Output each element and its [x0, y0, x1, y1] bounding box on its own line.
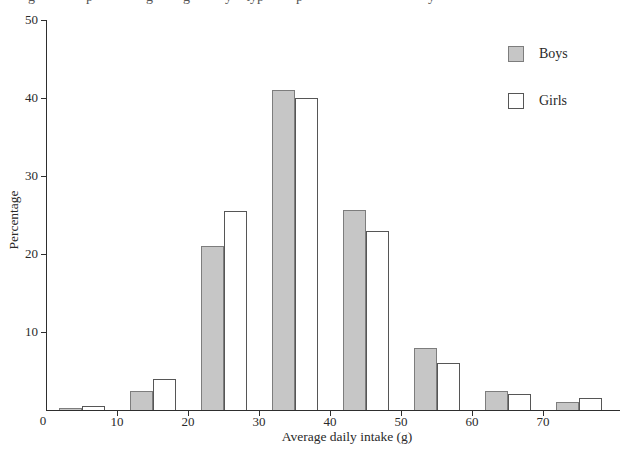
- y-tick-50: [41, 20, 46, 21]
- bar-girls-30-40: [295, 98, 318, 410]
- bar-girls-50-60: [437, 363, 460, 410]
- bar-girls-60-70: [508, 394, 531, 410]
- x-tick-label-70: 70: [528, 414, 558, 430]
- bar-boys-70-80: [556, 402, 579, 410]
- y-tick-label-30: 30: [8, 168, 38, 184]
- bar-boys-40-50: [343, 210, 366, 410]
- x-tick-label-60: 60: [457, 414, 487, 430]
- legend-swatch-boys: [508, 46, 524, 62]
- y-axis-line: [46, 20, 47, 411]
- bar-boys-30-40: [272, 90, 295, 410]
- bar-girls-40-50: [366, 231, 389, 410]
- plot-area: 0102030405010203040506070: [0, 0, 627, 456]
- y-tick-label-50: 50: [8, 12, 38, 28]
- legend-item-girls: Girls: [508, 93, 567, 109]
- legend-label-boys: Boys: [539, 46, 568, 62]
- x-tick-label-40: 40: [315, 414, 345, 430]
- bar-girls-70-80: [579, 398, 602, 410]
- y-tick-label-10: 10: [8, 324, 38, 340]
- y-tick-30: [41, 176, 46, 177]
- x-tick-label-20: 20: [173, 414, 203, 430]
- legend-swatch-girls: [508, 93, 524, 109]
- chart-canvas: gpggytyppy 0102030405010203040506070 Per…: [0, 0, 627, 456]
- y-tick-40: [41, 98, 46, 99]
- bar-girls-20-30: [224, 211, 247, 410]
- y-tick-20: [41, 254, 46, 255]
- x-tick-label-50: 50: [386, 414, 416, 430]
- y-tick-label-40: 40: [8, 90, 38, 106]
- bar-boys-20-30: [201, 246, 224, 410]
- bar-girls-10-20: [153, 379, 176, 410]
- bar-boys-60-70: [485, 391, 508, 411]
- x-tick-label-30: 30: [244, 414, 274, 430]
- legend-label-girls: Girls: [539, 93, 567, 109]
- legend-item-boys: Boys: [508, 46, 568, 62]
- bar-boys-10-20: [130, 391, 153, 411]
- x-axis-title: Average daily intake (g): [282, 429, 413, 445]
- bar-boys-50-60: [414, 348, 437, 410]
- y-tick-10: [41, 332, 46, 333]
- y-tick-label-0: 0: [36, 413, 50, 429]
- x-tick-label-10: 10: [102, 414, 132, 430]
- x-axis-line: [46, 410, 620, 411]
- y-axis-title: Percentage: [6, 190, 22, 249]
